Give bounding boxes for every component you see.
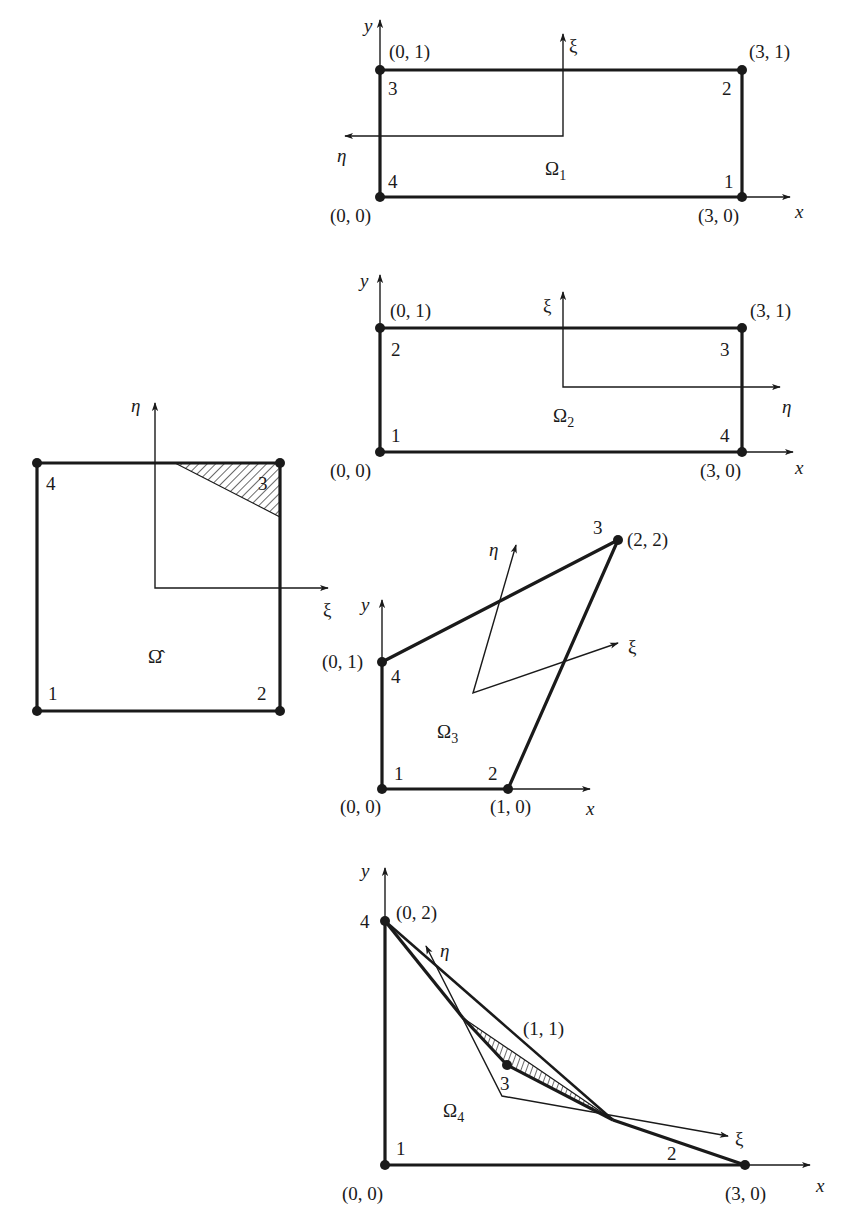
element-omega3: y x η ξ 1 2 3 4 (0, 0) (1, 0) (2, 2) (0,… bbox=[322, 517, 668, 819]
node-coordinate: (0, 0) bbox=[340, 796, 381, 818]
node-coordinate: (3, 1) bbox=[750, 300, 791, 322]
x-axis-label: x bbox=[794, 457, 804, 478]
element-label: Ω1 bbox=[545, 158, 566, 183]
reference-boundary bbox=[37, 463, 280, 711]
node-coordinate: (0, 2) bbox=[396, 902, 437, 924]
node-4 bbox=[375, 192, 385, 202]
node-coordinate: (0, 0) bbox=[330, 460, 371, 482]
node-1 bbox=[380, 1160, 390, 1170]
node-number: 3 bbox=[500, 1073, 510, 1094]
element-omega4: y x η ξ 1 2 3 4 (0, 0) (3, 0) (1, 1) (0,… bbox=[342, 860, 825, 1205]
node-number: 3 bbox=[388, 78, 398, 99]
element-label: Ω2 bbox=[553, 405, 574, 430]
node-2 bbox=[275, 706, 285, 716]
node-1 bbox=[737, 192, 747, 202]
element-label: Ω3 bbox=[437, 721, 458, 746]
local-axes bbox=[563, 292, 780, 387]
node-coordinate: (1, 0) bbox=[490, 796, 531, 818]
xi-axis-label: ξ bbox=[569, 35, 578, 56]
node-number: 3 bbox=[593, 517, 603, 538]
element-boundary bbox=[382, 540, 618, 789]
xi-axis-label: ξ bbox=[735, 1128, 744, 1149]
node-3 bbox=[375, 65, 385, 75]
node-3 bbox=[737, 323, 747, 333]
eta-axis-label: η bbox=[489, 539, 498, 560]
element-label: Ω4 bbox=[443, 1100, 464, 1125]
node-number: 4 bbox=[720, 425, 730, 446]
node-number: 1 bbox=[396, 1138, 406, 1159]
x-axis-label: x bbox=[815, 1175, 825, 1196]
node-number: 1 bbox=[724, 171, 734, 192]
node-coordinate: (2, 2) bbox=[627, 529, 668, 551]
node-2 bbox=[737, 65, 747, 75]
x-axis-label: x bbox=[794, 201, 804, 222]
spacer bbox=[385, 921, 745, 1165]
element-omega2: y x ξ η 2 3 1 4 (0, 1) (3, 1) (0, 0) (3,… bbox=[330, 270, 804, 482]
node-2 bbox=[375, 323, 385, 333]
node-number: 1 bbox=[391, 425, 401, 446]
node-coordinate: (3, 0) bbox=[700, 460, 741, 482]
element-mapping-figure: y x ξ η 3 2 4 1 (0, 1) (3, 1) (0, 0) (3,… bbox=[0, 0, 858, 1222]
y-axis-label: y bbox=[362, 15, 373, 36]
element-omega1: y x ξ η 3 2 4 1 (0, 1) (3, 1) (0, 0) (3,… bbox=[330, 15, 804, 227]
x-axis-label: x bbox=[585, 798, 595, 819]
node-number: 4 bbox=[391, 666, 401, 687]
local-axes bbox=[473, 545, 618, 693]
local-axes bbox=[426, 946, 728, 1136]
node-coordinate: (0, 0) bbox=[342, 1183, 383, 1205]
element-boundary bbox=[380, 328, 742, 452]
node-number: 4 bbox=[388, 171, 398, 192]
node-number: 2 bbox=[488, 763, 498, 784]
xi-axis-label: ξ bbox=[543, 295, 552, 316]
unused bbox=[385, 921, 745, 1165]
local-axes bbox=[345, 34, 563, 136]
node-coordinate: (0, 0) bbox=[330, 205, 371, 227]
node-4 bbox=[377, 657, 387, 667]
y-axis-label: y bbox=[359, 594, 370, 615]
node-number: 2 bbox=[257, 683, 267, 704]
node-1 bbox=[32, 706, 42, 716]
node-number: 2 bbox=[722, 78, 732, 99]
node-3 bbox=[275, 458, 285, 468]
node-number: 4 bbox=[46, 473, 56, 494]
reference-label: Ω̂ bbox=[148, 646, 165, 667]
node-number: 2 bbox=[667, 1143, 677, 1164]
node-coordinate: (0, 1) bbox=[322, 651, 363, 673]
node-3 bbox=[613, 535, 623, 545]
eta-axis-label: η bbox=[337, 145, 346, 166]
node-coordinate: (3, 0) bbox=[725, 1183, 766, 1205]
node-number: 3 bbox=[258, 473, 268, 494]
node-2 bbox=[503, 784, 513, 794]
node-2 bbox=[740, 1160, 750, 1170]
node-number: 2 bbox=[391, 339, 401, 360]
eta-axis-label: η bbox=[782, 396, 791, 417]
y-axis-label: y bbox=[358, 270, 369, 291]
node-1 bbox=[375, 447, 385, 457]
node-number: 3 bbox=[720, 339, 730, 360]
eta-axis-label: η bbox=[440, 940, 449, 961]
node-4 bbox=[737, 447, 747, 457]
node-coordinate: (3, 0) bbox=[698, 205, 739, 227]
eta-axis-label: η bbox=[131, 395, 140, 416]
y-axis-label: y bbox=[359, 860, 370, 881]
node-1 bbox=[377, 784, 387, 794]
xi-axis-label: ξ bbox=[628, 636, 637, 657]
node-coordinate: (1, 1) bbox=[523, 1018, 564, 1040]
node-4 bbox=[32, 458, 42, 468]
node-coordinate: (0, 1) bbox=[389, 41, 430, 63]
xi-axis-label: ξ bbox=[323, 599, 332, 620]
edge-3-4b bbox=[385, 921, 463, 1018]
node-number: 1 bbox=[48, 683, 58, 704]
node-3 bbox=[502, 1060, 512, 1070]
node-coordinate: (0, 1) bbox=[390, 300, 431, 322]
edge-3-4a bbox=[463, 1018, 507, 1065]
reference-element: η ξ 4 3 1 2 Ω̂ bbox=[32, 395, 332, 716]
node-4 bbox=[380, 916, 390, 926]
node-coordinate: (3, 1) bbox=[749, 41, 790, 63]
node-number: 1 bbox=[394, 763, 404, 784]
node-number: 4 bbox=[360, 911, 370, 932]
